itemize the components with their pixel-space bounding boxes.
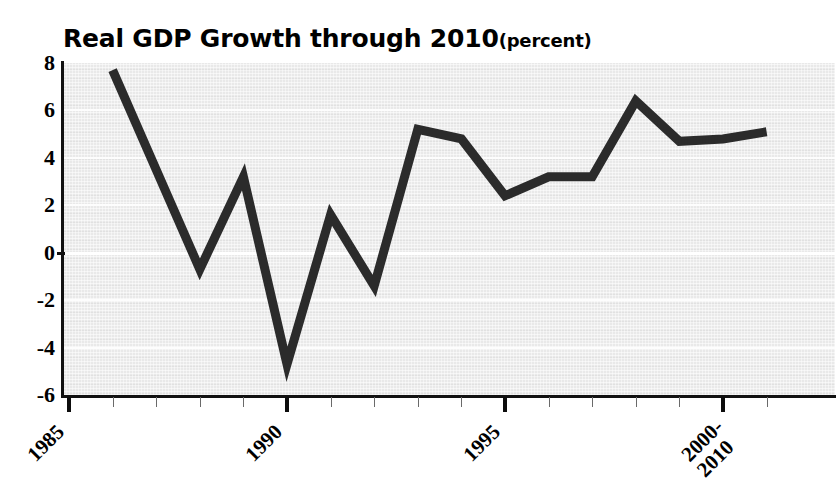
data-line-series: [113, 70, 767, 364]
x-tick-minor: [679, 397, 680, 407]
x-tick-minor: [549, 397, 550, 407]
chart-title-unit: (percent): [499, 30, 592, 51]
chart-title-main: Real GDP Growth through 2010: [63, 24, 499, 53]
x-tick-minor: [636, 397, 637, 407]
y-tick-label: 8: [9, 52, 55, 74]
y-tick-label: 0: [9, 242, 55, 264]
y-axis-line: [61, 61, 64, 397]
x-tick-label: 2000-2010: [677, 415, 743, 481]
x-tick-minor: [767, 397, 768, 407]
y-tick-label: 4: [9, 147, 55, 169]
gdp-growth-chart: Real GDP Growth through 2010(percent) 86…: [0, 0, 837, 502]
y-tick-label: -6: [9, 384, 55, 406]
data-line-svg: [63, 63, 835, 395]
x-tick-label: 1990: [241, 420, 286, 465]
x-tick-minor: [156, 397, 157, 407]
x-tick-major: [503, 397, 507, 412]
x-tick-minor: [113, 397, 114, 407]
y-tick-label: -2: [9, 289, 55, 311]
y-tick-label: -4: [9, 337, 55, 359]
x-tick-major: [721, 397, 725, 412]
x-tick-minor: [461, 397, 462, 407]
x-tick-major: [67, 397, 71, 412]
plot-area: [63, 63, 835, 395]
y-tick-label: 6: [9, 99, 55, 121]
x-tick-major: [285, 397, 289, 412]
x-tick-minor: [374, 397, 375, 407]
x-tick-minor: [200, 397, 201, 407]
chart-title: Real GDP Growth through 2010(percent): [63, 24, 592, 53]
x-tick-label: 1995: [459, 420, 504, 465]
x-tick-minor: [592, 397, 593, 407]
y-tick-label: 2: [9, 194, 55, 216]
x-tick-minor: [331, 397, 332, 407]
x-tick-minor: [418, 397, 419, 407]
x-tick-minor: [243, 397, 244, 407]
y-axis-zero-tick: [57, 252, 65, 255]
x-axis-line: [61, 395, 836, 398]
